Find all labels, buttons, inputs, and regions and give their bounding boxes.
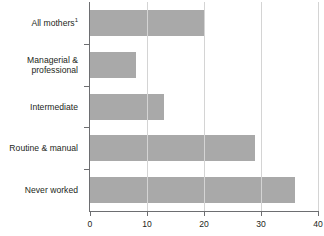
category-label: Managerial &professional <box>0 54 78 75</box>
bar <box>90 177 295 203</box>
x-axis-tick <box>90 212 91 216</box>
x-axis-tick-label: 10 <box>142 219 152 229</box>
footnote-marker: 1 <box>75 17 78 23</box>
y-axis-tick <box>84 44 89 45</box>
x-axis-tick <box>318 212 319 216</box>
gridline-20 <box>204 2 205 211</box>
y-axis-tick <box>84 86 89 87</box>
x-axis-tick <box>204 212 205 216</box>
x-axis-tick-label: 30 <box>256 219 266 229</box>
x-axis-tick <box>261 212 262 216</box>
y-axis-tick <box>84 127 89 128</box>
bar <box>90 52 136 78</box>
category-label: All mothers1 <box>0 18 78 28</box>
gridline-40 <box>318 2 319 211</box>
y-axis-tick <box>84 169 89 170</box>
x-axis-tick-label: 0 <box>88 219 93 229</box>
plot-area <box>90 2 318 211</box>
bar <box>90 135 255 161</box>
category-axis-labels: All mothers1Managerial &professionalInte… <box>0 2 86 211</box>
gridline-10 <box>147 2 148 211</box>
y-axis-line <box>89 2 90 212</box>
x-axis-tick-label: 20 <box>199 219 209 229</box>
footnote-strip <box>0 232 324 236</box>
category-label: Intermediate <box>0 101 78 111</box>
x-axis-tick-label: 40 <box>313 219 323 229</box>
category-label: Never worked <box>0 185 78 195</box>
bar <box>90 94 164 120</box>
x-axis-tick <box>147 212 148 216</box>
category-label: Routine & manual <box>0 143 78 153</box>
gridline-30 <box>261 2 262 211</box>
horizontal-bar-chart: All mothers1Managerial &professionalInte… <box>0 0 324 236</box>
